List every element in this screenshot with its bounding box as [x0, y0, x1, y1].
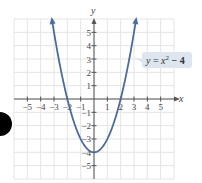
coordinate-plane: −5−4−3−2−11234554321−1−2−3−4−5 y = x2 − …	[0, 0, 202, 183]
y-tick-label: 1	[87, 81, 92, 91]
curve-arrow-icon	[50, 17, 56, 24]
y-axis-label: y	[90, 5, 96, 16]
x-tick-label: −4	[36, 102, 46, 112]
equation-label: y = x2 − 4	[134, 52, 192, 68]
x-axis-label: x	[178, 93, 184, 104]
x-tick-label: 4	[145, 102, 150, 112]
y-tick-label: −2	[81, 121, 91, 131]
y-tick-label: 5	[87, 28, 92, 38]
graph-figure: −5−4−3−2−11234554321−1−2−3−4−5 y = x2 − …	[0, 0, 202, 183]
x-tick-label: 5	[158, 102, 163, 112]
x-tick-label: −5	[23, 102, 33, 112]
axes	[14, 18, 180, 179]
label-eq: =	[150, 55, 161, 66]
y-tick-label: 2	[87, 68, 92, 78]
y-tick-label: −5	[81, 161, 91, 171]
label-rest: − 4	[169, 55, 185, 66]
x-tick-label: 1	[105, 102, 110, 112]
y-tick-label: 4	[87, 41, 92, 51]
x-tick-label: −3	[49, 102, 59, 112]
svg-text:y = x2 − 4: y = x2 − 4	[145, 54, 185, 66]
x-tick-label: 3	[132, 102, 137, 112]
curve-arrow-icon	[132, 17, 138, 24]
y-tick-label: −1	[81, 108, 91, 118]
y-tick-label: 3	[87, 55, 92, 65]
